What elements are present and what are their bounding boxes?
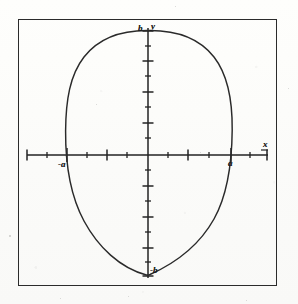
x-axis-label: x [263, 140, 268, 149]
bottom-vertex-label: -b [150, 266, 158, 275]
ellipse-figure: y x b -b -a a [0, 0, 298, 304]
y-axis-label: y [151, 22, 155, 31]
y-axis [143, 28, 154, 278]
top-vertex-label: b [138, 24, 143, 33]
left-vertex-label: -a [58, 160, 66, 169]
right-vertex-label: a [228, 159, 233, 168]
ellipse-curve-group [66, 30, 233, 275]
plot-canvas [0, 0, 298, 304]
ellipse-curve [66, 30, 233, 275]
